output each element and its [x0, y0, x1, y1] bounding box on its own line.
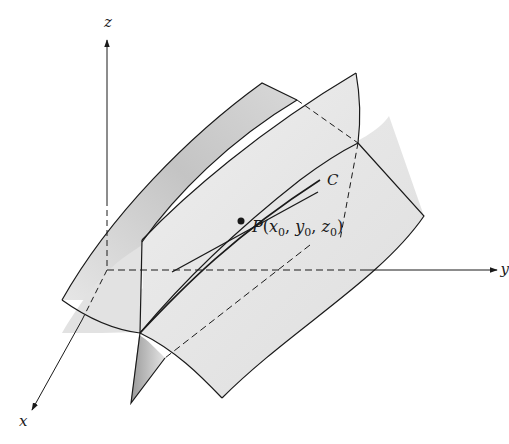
figure-canvas: z y x C P(x0, y0, z0)	[0, 0, 509, 444]
point-p	[238, 218, 245, 225]
z-axis-label: z	[103, 13, 112, 31]
y-axis-label: y	[500, 260, 509, 278]
x-axis	[32, 320, 82, 410]
x-axis-label: x	[19, 412, 28, 430]
surface-vertical-flap	[131, 335, 165, 403]
point-label: P(x0, y0, z0)	[251, 217, 343, 239]
curve-label: C	[327, 171, 339, 189]
